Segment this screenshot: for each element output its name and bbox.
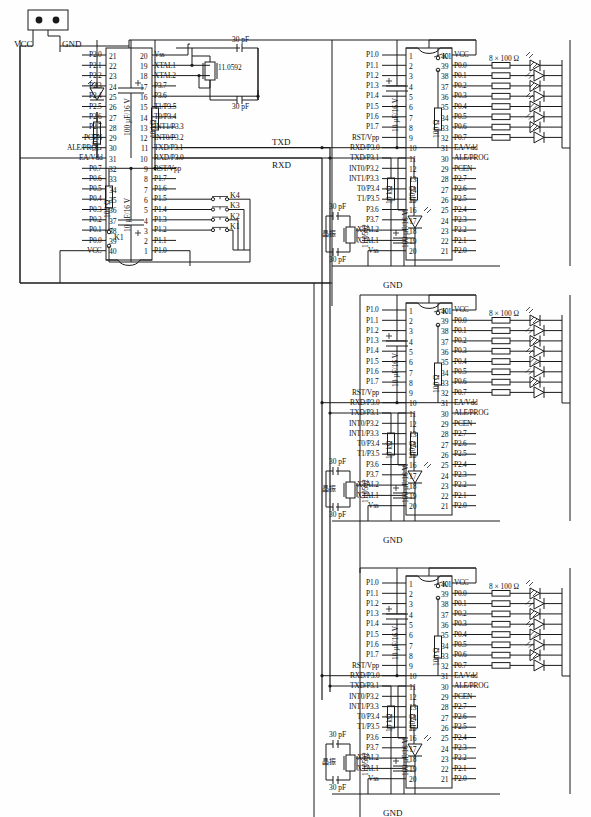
slave-1-pin-label-p2-7: P2.7	[454, 175, 467, 182]
master-reset-key-label[interactable]: K1	[114, 234, 124, 242]
master-pin-num-20: 20	[140, 53, 148, 61]
slave-1-pin-label-p2-6: P2.6	[454, 185, 467, 192]
slave-1-pin-label-ea-vdd: EA/Vdd	[454, 144, 477, 151]
slave-2-pin-label-t1-p3-5: T1/P3.5	[357, 450, 379, 457]
master-cap-bot-label: 30 pF	[232, 103, 249, 110]
slave-1-pin-label-p3-7: P3.7	[366, 216, 379, 223]
master-pin-num-27: 27	[109, 115, 117, 123]
slave-1-reset-key-label[interactable]: K1	[442, 53, 452, 61]
slave-2-pin-num-39: 39	[441, 318, 449, 326]
slave-2-pin-num-21: 21	[441, 503, 449, 511]
slave-3-pin-num-8: 8	[409, 653, 413, 661]
slave-3-pin-label-p2-1: P2.1	[454, 765, 467, 772]
slave-2-pin-num-33: 33	[441, 380, 449, 388]
slave-3-reset-key-label[interactable]: K1	[442, 581, 452, 589]
slave-2-pin-label-vcc: VCC	[454, 306, 469, 313]
slave-1-pin-label-t1-p3-5: T1/P3.5	[357, 195, 379, 202]
slave-2-pin-num-36: 36	[441, 349, 449, 357]
slave-1-pin-label-p2-2: P2.2	[454, 226, 467, 233]
slave-3-pin-num-12: 12	[409, 694, 417, 702]
master-pin-label-p2-1: P2.1	[89, 62, 102, 69]
master-pin-label-p1-0: P1.0	[154, 247, 167, 254]
slave-2-pin-num-29: 29	[441, 421, 449, 429]
slave-3-pin-num-21: 21	[441, 776, 449, 784]
slave-1-res-reset-label: 100 Ω	[433, 120, 440, 138]
slave-2-pin-label-p1-1: P1.1	[366, 317, 379, 324]
master-pin-num-33: 33	[109, 176, 117, 184]
slave-1-pin-num-4: 4	[409, 84, 413, 92]
slave-3-pin-label-p3-7: P3.7	[366, 744, 379, 751]
slave-1-pin-num-20: 20	[409, 248, 417, 256]
slave-2-pin-num-1: 1	[409, 308, 413, 316]
rxd-bus-label: RXD	[272, 161, 291, 170]
master-pin-label-xtal2: XTAL2	[154, 72, 176, 79]
slave-3-pin-label-p2-2: P2.2	[454, 754, 467, 761]
gnd-label-slave2: GND	[383, 536, 403, 545]
slave-2-pin-num-38: 38	[441, 328, 449, 336]
slave-1-pin-label-p0-3: P0.3	[454, 92, 467, 99]
slave-1-pin-num-10: 10	[409, 145, 417, 153]
master-pin-num-16: 16	[140, 94, 148, 102]
slave-3-pin-num-26: 26	[441, 725, 449, 733]
slave-3-pin-num-16: 16	[409, 735, 417, 743]
master-key-K3[interactable]: K3	[230, 202, 240, 210]
master-pin-num-25: 25	[109, 94, 117, 102]
slave-2-pin-num-27: 27	[441, 442, 449, 450]
slave-3-pin-num-17: 17	[409, 746, 417, 754]
slave-2-pin-label-p1-5: P1.5	[366, 358, 379, 365]
slave-3-pin-num-25: 25	[441, 735, 449, 743]
slave-2-pin-label-p2-0: P2.0	[454, 502, 467, 509]
slave-1-pin-label-p1-6: P1.6	[366, 113, 379, 120]
slave-1-pin-label-p0-7: P0.7	[454, 134, 467, 141]
slave-2-pin-num-35: 35	[441, 359, 449, 367]
slave-2-pin-label-p2-6: P2.6	[454, 440, 467, 447]
slave-1-pin-num-13: 13	[409, 176, 417, 184]
slave-1-pin-num-32: 32	[441, 135, 449, 143]
slave-3-pin-num-10: 10	[409, 673, 417, 681]
master-key-K1[interactable]: K1	[230, 223, 240, 231]
master-pin-num-26: 26	[109, 104, 117, 112]
slave-3-pin-label-p2-5: P2.5	[454, 723, 467, 730]
slave-1-pin-label-p2-0: P2.0	[454, 247, 467, 254]
slave-3-pin-label-p3-6: P3.6	[366, 734, 379, 741]
slave-2-pin-num-6: 6	[409, 359, 413, 367]
master-pin-label-p1-4: P1.4	[154, 206, 167, 213]
master-key-K2[interactable]: K2	[230, 213, 240, 221]
slave-2-pin-num-26: 26	[441, 452, 449, 460]
slave-2-pin-label-p1-4: P1.4	[366, 347, 379, 354]
slave-1-pin-label-int0-p3-2: INT0/P3.2	[349, 165, 379, 172]
slave-2-pin-label-p0-0: P0.0	[454, 317, 467, 324]
master-pin-num-37: 37	[109, 218, 117, 226]
slave-2-reset-key-label[interactable]: K1	[442, 308, 452, 316]
slave-3-pin-label-p0-6: P0.6	[454, 651, 467, 658]
master-pin-num-11: 11	[141, 145, 148, 153]
slave-1-pin-num-5: 5	[409, 94, 413, 102]
slave-3-pin-label-t1-p3-5: T1/P3.5	[357, 723, 379, 730]
slave-3-pin-label-int0-p3-2: INT0/P3.2	[349, 693, 379, 700]
slave-3-pin-num-39: 39	[441, 591, 449, 599]
slave-1-pin-label-txd-p3-1: TXD/P3.1	[350, 154, 379, 161]
slave-2-pin-label-p3-7: P3.7	[366, 471, 379, 478]
slave-3-pin-num-31: 31	[441, 673, 449, 681]
master-pin-label-p0-5: P0.5	[89, 185, 102, 192]
slave-1-pin-label-t0-p3-4: T0/P3.4	[357, 185, 379, 192]
slave-2-pin-num-20: 20	[409, 503, 417, 511]
master-pin-num-13: 13	[140, 125, 148, 133]
slave-3-pin-label-p1-5: P1.5	[366, 631, 379, 638]
master-pin-num-28: 28	[109, 125, 117, 133]
slave-2-pin-num-37: 37	[441, 339, 449, 347]
master-cap-reset-label: 10 µF/16 V	[124, 198, 131, 232]
slave-1-pin-num-39: 39	[441, 63, 449, 71]
slave-2-pin-label-p0-1: P0.1	[454, 327, 467, 334]
master-pin-num-23: 23	[109, 73, 117, 81]
slave-2-pin-label-ea-vdd: EA/Vdd	[454, 399, 477, 406]
master-pin-num-18: 18	[140, 73, 148, 81]
master-pin-num-29: 29	[109, 135, 117, 143]
master-pin-label-p0-0: P0.0	[89, 237, 102, 244]
master-key-K4[interactable]: K4	[230, 192, 240, 200]
slave-3-pin-num-4: 4	[409, 612, 413, 620]
slave-2-pin-label-p2-1: P2.1	[454, 492, 467, 499]
slave-3-pin-num-7: 7	[409, 643, 413, 651]
slave-1-pin-num-30: 30	[441, 156, 449, 164]
slave-3-pin-label-p2-7: P2.7	[454, 703, 467, 710]
